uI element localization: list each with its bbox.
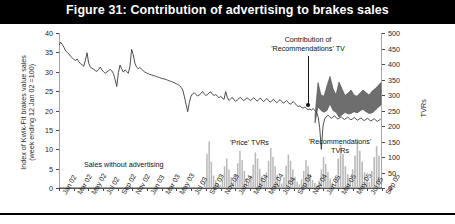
right-tick-mark (382, 173, 385, 174)
left-tick-mark (56, 149, 59, 150)
right-tick-label: 100 (388, 153, 410, 162)
right-tick-label: 500 (388, 29, 410, 38)
right-axis-title: TVRs (420, 63, 428, 153)
right-tick-mark (382, 64, 385, 65)
left-axis-title-line2: (week ending 12 Jan 02 =100) (28, 37, 36, 187)
right-tick-label: 450 (388, 45, 410, 54)
annotation-recommendations-line2: TVRs (295, 147, 385, 156)
right-tick-mark (382, 80, 385, 81)
bottom-rule (0, 213, 455, 215)
annotation-price-tvrs: 'Price' TVRs (230, 139, 269, 148)
left-tick-label: 35 (37, 48, 53, 57)
x-tick-mark (279, 188, 280, 191)
left-tick-label: 10 (37, 145, 53, 154)
x-tick-mark (250, 188, 251, 191)
left-tick-mark (56, 91, 59, 92)
x-tick-mark (132, 188, 133, 191)
left-axis-title: Index of Kwik-Fit brakes value sales (we… (20, 37, 37, 187)
annotation-contribution: Contribution of 'Recommendations' TV (243, 36, 373, 53)
left-tick-mark (56, 169, 59, 170)
right-tick-mark (382, 157, 385, 158)
x-tick-mark (294, 188, 295, 191)
left-tick-label: 40 (37, 29, 53, 38)
x-tick-mark (221, 188, 222, 191)
left-tick-label: 0 (37, 184, 53, 193)
left-tick-mark (56, 52, 59, 53)
x-tick-mark (309, 188, 310, 191)
contribution-band (315, 76, 381, 123)
x-tick-mark (74, 188, 75, 191)
x-tick-mark (382, 188, 383, 191)
right-tick-label: 200 (388, 122, 410, 131)
annotation-recommendations-tvrs: 'Recommendations' TVRs (295, 138, 385, 155)
left-tick-label: 15 (37, 126, 53, 135)
annotation-sales-without-advertising: Sales without advertising (84, 161, 164, 170)
x-tick-mark (162, 188, 163, 191)
figure-title: Figure 31: Contribution of advertising t… (0, 3, 455, 17)
left-tick-mark (56, 111, 59, 112)
right-tick-mark (382, 95, 385, 96)
x-tick-mark (59, 188, 60, 191)
right-tick-label: 350 (388, 76, 410, 85)
left-tick-mark (56, 72, 59, 73)
right-tick-mark (382, 33, 385, 34)
left-tick-label: 30 (37, 68, 53, 77)
x-tick-mark (191, 188, 192, 191)
left-tick-mark (56, 130, 59, 131)
x-tick-mark (265, 188, 266, 191)
annotation-leader-dot (306, 103, 310, 107)
left-tick-label: 5 (37, 165, 53, 174)
right-tick-mark (382, 111, 385, 112)
figure-container: Figure 31: Contribution of advertising t… (0, 0, 455, 224)
x-tick-mark (103, 188, 104, 191)
right-tick-label: 150 (388, 138, 410, 147)
x-tick-mark (338, 188, 339, 191)
right-tick-mark (382, 49, 385, 50)
left-tick-mark (56, 33, 59, 34)
right-tick-label: 400 (388, 60, 410, 69)
x-tick-mark (367, 188, 368, 191)
x-tick-mark (118, 188, 119, 191)
x-tick-mark (88, 188, 89, 191)
left-tick-label: 20 (37, 107, 53, 116)
x-tick-mark (206, 188, 207, 191)
right-tick-mark (382, 126, 385, 127)
x-tick-mark (353, 188, 354, 191)
right-tick-label: 250 (388, 107, 410, 116)
x-tick-mark (147, 188, 148, 191)
right-tick-label: 300 (388, 91, 410, 100)
annotation-contribution-line2: 'Recommendations' TV (243, 45, 373, 54)
x-tick-mark (235, 188, 236, 191)
left-tick-label: 25 (37, 87, 53, 96)
annotation-leader-line (308, 56, 309, 105)
x-tick-mark (323, 188, 324, 191)
